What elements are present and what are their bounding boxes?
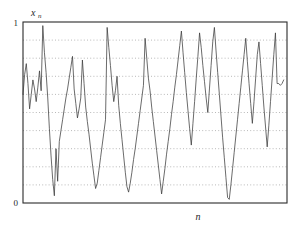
y-axis-tick-top: 1 [14, 18, 19, 28]
y-axis-label: x [30, 7, 36, 18]
chart-background [0, 0, 304, 234]
chart-svg: 1 0 x n n [0, 0, 304, 234]
y-axis-tick-bottom: 0 [14, 198, 19, 208]
x-axis-label: n [196, 211, 201, 222]
y-axis-label-subscript: n [38, 12, 42, 20]
chart-figure: 1 0 x n n [0, 0, 304, 234]
